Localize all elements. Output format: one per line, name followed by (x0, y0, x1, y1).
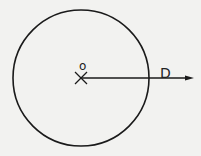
center-label: o (79, 60, 86, 72)
arrowhead-icon (185, 76, 194, 81)
ray-label: D (160, 66, 171, 80)
diagram-canvas (0, 0, 201, 156)
